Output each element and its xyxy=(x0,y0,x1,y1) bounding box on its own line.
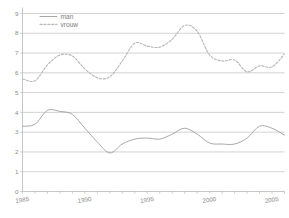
y-axis-tick-label: 9 xyxy=(15,10,19,17)
y-axis-tick-label: 2 xyxy=(15,148,19,155)
x-axis-tick-label: 1990 xyxy=(77,195,92,204)
legend-label-vrouw: vrouw xyxy=(61,21,79,28)
y-axis-tick-label: 6 xyxy=(15,69,19,76)
y-axis-tick-label: 3 xyxy=(15,128,19,135)
x-axis-tick-label: 1985 xyxy=(15,195,30,204)
grid-lines xyxy=(23,14,285,172)
x-axis-tick-label: 2000 xyxy=(202,195,217,204)
chart-legend: manvrouw xyxy=(40,13,78,28)
y-axis-tick-label: 1 xyxy=(15,168,19,175)
series-line-man xyxy=(23,110,285,153)
legend-label-man: man xyxy=(61,13,74,20)
line-chart: 0123456789 19851990199520002005 manvrouw xyxy=(0,0,289,218)
y-axis-tick-labels: 0123456789 xyxy=(15,10,22,195)
x-axis-tick-labels: 19851990199520002005 xyxy=(15,195,280,204)
x-axis-tick-label: 2005 xyxy=(264,195,279,204)
y-axis-tick-label: 4 xyxy=(15,109,19,116)
y-axis-tick-label: 5 xyxy=(15,89,19,96)
x-axis-tick-label: 1995 xyxy=(140,195,155,204)
y-axis-tick-label: 8 xyxy=(15,29,19,36)
y-axis-tick-label: 0 xyxy=(15,188,19,195)
data-series-group xyxy=(23,25,285,153)
chart-container: 0123456789 19851990199520002005 manvrouw xyxy=(0,0,289,218)
y-axis-tick-label: 7 xyxy=(15,49,19,56)
